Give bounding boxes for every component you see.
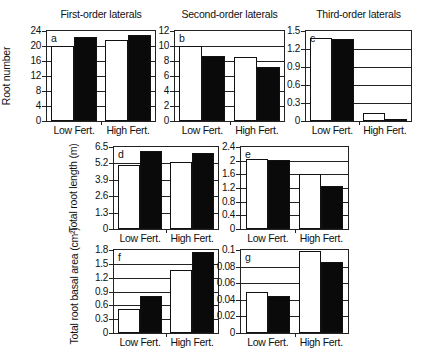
- y-tick-label: 0: [11, 116, 41, 126]
- panel-letter-g: g: [245, 251, 251, 263]
- y-tick: [236, 188, 240, 189]
- y-tick-label: 0: [78, 224, 108, 234]
- x-category-label: Low Fert.: [172, 124, 232, 136]
- plot-frame-b: b: [174, 30, 285, 122]
- y-tick-label: 0: [270, 116, 300, 126]
- y-tick: [42, 31, 46, 32]
- bar-g-lowfert-black: [268, 296, 290, 333]
- y-tick: [236, 300, 240, 301]
- y-axis-label: Total root basal area (cm²): [67, 239, 79, 344]
- y-tick: [109, 292, 113, 293]
- y-tick: [109, 250, 113, 251]
- y-tick-label: 4: [11, 101, 41, 111]
- y-tick-label: 0.06: [205, 278, 235, 288]
- y-tick-label: 20: [11, 41, 41, 51]
- y-tick: [109, 180, 113, 181]
- bar-c-highfert-white: [363, 113, 385, 121]
- bar-b-highfert-black: [257, 67, 280, 121]
- plot-frame-c: c: [305, 30, 412, 122]
- y-tick-label: 1.2: [78, 273, 108, 283]
- bar-f-lowfert-white: [118, 309, 140, 333]
- y-tick-label: 8: [139, 56, 169, 66]
- x-axis-mid-tick: [295, 334, 296, 337]
- y-tick: [236, 316, 240, 317]
- x-category-label: High Fert.: [291, 232, 351, 244]
- y-tick: [42, 46, 46, 47]
- x-category-label: Low Fert.: [302, 124, 362, 136]
- y-tick: [170, 91, 174, 92]
- y-tick: [109, 229, 113, 230]
- y-tick: [170, 76, 174, 77]
- y-tick: [109, 278, 113, 279]
- y-tick-label: 2: [205, 156, 235, 166]
- y-tick: [109, 333, 113, 334]
- y-tick-label: 0.02: [205, 311, 235, 321]
- plot-frame-e: e: [240, 146, 349, 230]
- bar-e-highfert-white: [299, 174, 321, 229]
- x-axis-mid-tick: [230, 122, 231, 125]
- x-category-label: Low Fert.: [238, 232, 298, 244]
- y-tick-label: 0.3: [78, 314, 108, 324]
- plot-frame-g: g: [240, 249, 349, 334]
- bar-c-highfert-black: [385, 119, 407, 121]
- bar-e-lowfert-white: [246, 159, 268, 229]
- y-tick-label: 0: [205, 328, 235, 338]
- x-category-label: High Fert.: [291, 336, 351, 348]
- y-tick-label: 16: [11, 56, 41, 66]
- y-tick-label: 0.9: [78, 287, 108, 297]
- y-tick-label: 0.8: [205, 197, 235, 207]
- y-tick-label: 2: [139, 101, 169, 111]
- y-tick-label: 0.6: [270, 80, 300, 90]
- y-tick: [236, 250, 240, 251]
- y-tick-label: 0.3: [270, 98, 300, 108]
- bar-d-lowfert-white: [118, 165, 140, 229]
- bar-a-lowfert-white: [51, 46, 74, 121]
- y-tick: [301, 67, 305, 68]
- x-category-label: Low Fert.: [110, 232, 170, 244]
- y-tick: [301, 121, 305, 122]
- y-tick-label: 1.2: [270, 44, 300, 54]
- y-tick-label: 1.8: [78, 245, 108, 255]
- bar-g-highfert-white: [299, 251, 321, 333]
- y-tick-label: 4: [139, 86, 169, 96]
- panel-title: First-order laterals: [36, 8, 166, 20]
- y-tick: [236, 283, 240, 284]
- bar-d-highfert-white: [170, 162, 192, 229]
- panel-letter-d: d: [118, 148, 124, 160]
- y-tick: [170, 61, 174, 62]
- y-tick-label: 1.2: [205, 183, 235, 193]
- y-tick: [109, 319, 113, 320]
- x-axis-mid-tick: [166, 230, 167, 233]
- y-tick-label: 1.6: [205, 169, 235, 179]
- x-axis-mid-tick: [101, 122, 102, 125]
- x-axis-mid-tick: [166, 334, 167, 337]
- bar-b-highfert-white: [234, 57, 257, 122]
- y-tick-label: 1.3: [78, 208, 108, 218]
- y-tick: [42, 76, 46, 77]
- panel-letter-a: a: [51, 32, 57, 44]
- bar-d-lowfert-black: [140, 151, 162, 229]
- y-tick: [170, 31, 174, 32]
- bar-f-lowfert-black: [140, 296, 162, 333]
- y-tick: [42, 61, 46, 62]
- y-tick-label: 5.2: [78, 158, 108, 168]
- y-tick-label: 0.6: [78, 300, 108, 310]
- x-axis-mid-tick: [295, 230, 296, 233]
- y-tick-label: 0.1: [205, 245, 235, 255]
- y-tick: [236, 215, 240, 216]
- bar-f-highfert-white: [170, 270, 192, 333]
- y-tick: [236, 202, 240, 203]
- bar-g-lowfert-white: [246, 292, 268, 333]
- y-tick: [236, 333, 240, 334]
- x-category-label: Low Fert.: [110, 336, 170, 348]
- y-tick: [42, 121, 46, 122]
- bar-c-lowfert-black: [332, 39, 354, 121]
- bar-g-highfert-black: [321, 262, 343, 333]
- x-category-label: High Fert.: [355, 124, 415, 136]
- y-tick: [301, 85, 305, 86]
- y-tick: [170, 46, 174, 47]
- y-tick-label: 10: [139, 41, 169, 51]
- y-tick-label: 2.6: [78, 191, 108, 201]
- bar-c-lowfert-white: [310, 38, 332, 121]
- plot-frame-f: f: [113, 249, 219, 334]
